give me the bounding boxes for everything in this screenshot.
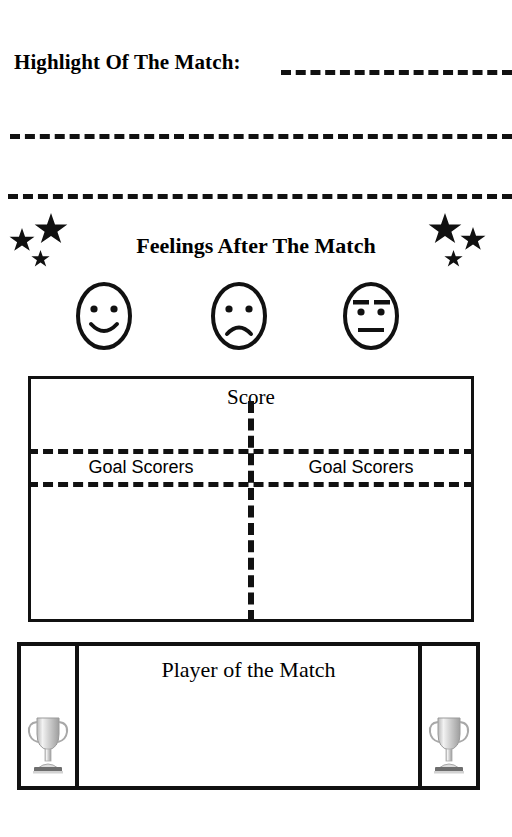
- trophy-cell-left: [21, 646, 79, 786]
- sad-face-icon[interactable]: [208, 280, 270, 352]
- feelings-title: Feelings After The Match: [0, 235, 512, 257]
- player-of-the-match-name-cell[interactable]: Player of the Match: [79, 646, 418, 786]
- player-of-the-match-title: Player of the Match: [79, 659, 418, 681]
- neutral-face-icon[interactable]: [340, 280, 402, 352]
- goal-scorers-divider-top: [28, 449, 474, 454]
- highlight-label: Highlight Of The Match:: [14, 52, 241, 73]
- goal-scorers-label-home: Goal Scorers: [31, 455, 251, 479]
- trophy-icon: [24, 710, 72, 778]
- home-score-field[interactable]: [31, 401, 251, 449]
- away-goal-scorers-field[interactable]: [251, 487, 471, 619]
- away-score-field[interactable]: [251, 401, 471, 449]
- home-goal-scorers-field[interactable]: [31, 487, 251, 619]
- feelings-after-the-match-section: Feelings After The Match: [0, 205, 512, 370]
- player-of-the-match-section: Player of the Match: [17, 642, 480, 790]
- highlight-writing-line-1[interactable]: [281, 70, 512, 75]
- highlight-writing-line-2[interactable]: [10, 134, 512, 139]
- score-table: Score Goal Scorers Goal Scorers: [28, 376, 474, 622]
- mood-face-options: [0, 280, 512, 360]
- trophy-icon: [425, 710, 473, 778]
- happy-face-icon[interactable]: [73, 280, 135, 352]
- highlight-of-the-match-section: Highlight Of The Match:: [0, 0, 512, 210]
- player-of-the-match-input[interactable]: [79, 694, 418, 786]
- highlight-writing-line-3[interactable]: [8, 194, 512, 199]
- trophy-cell-right: [418, 646, 476, 786]
- goal-scorers-label-away: Goal Scorers: [251, 455, 471, 479]
